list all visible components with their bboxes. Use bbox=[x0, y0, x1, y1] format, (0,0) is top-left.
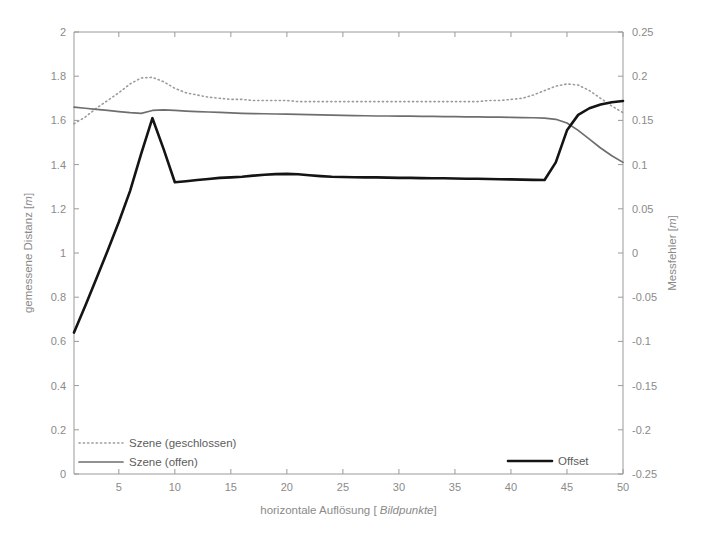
x-tick-label: 40 bbox=[505, 481, 517, 493]
legend-item-szene-offen-label: Szene (offen) bbox=[129, 456, 198, 468]
y-tick-label-right: 0.15 bbox=[632, 114, 653, 126]
y-tick-label-right: 0.25 bbox=[632, 26, 653, 38]
axes-frame bbox=[74, 32, 623, 474]
x-tick-label: 50 bbox=[617, 481, 629, 493]
y-tick-label-right: 0.1 bbox=[632, 159, 647, 171]
series-szene-offen bbox=[74, 107, 623, 162]
y-tick-label-right: 0.05 bbox=[632, 203, 653, 215]
series-offset bbox=[74, 101, 623, 333]
x-tick-label: 20 bbox=[281, 481, 293, 493]
y-tick-label-left: 1.2 bbox=[51, 203, 66, 215]
y-tick-label-left: 1.6 bbox=[51, 114, 66, 126]
y-tick-label-left: 1.8 bbox=[51, 70, 66, 82]
y-axis-title-left: gemessene Distanz [m] bbox=[22, 193, 34, 313]
y-tick-label-left: 0 bbox=[60, 468, 66, 480]
legend-item-offset-label: Offset bbox=[558, 455, 589, 467]
x-tick-label: 25 bbox=[337, 481, 349, 493]
chart-canvas: 510152025303540455000.20.40.60.811.21.41… bbox=[0, 0, 707, 536]
x-tick-label: 15 bbox=[225, 481, 237, 493]
y-tick-label-right: -0.25 bbox=[632, 468, 657, 480]
x-axis-title: horizontale Auflösung [ Bildpunkte] bbox=[260, 504, 436, 516]
y-tick-label-left: 0.4 bbox=[51, 380, 66, 392]
y-tick-label-left: 0.8 bbox=[51, 291, 66, 303]
x-tick-label: 45 bbox=[561, 481, 573, 493]
y-tick-label-left: 2 bbox=[60, 26, 66, 38]
series-szene-geschlossen bbox=[74, 77, 623, 123]
legend-item-szene-geschlossen-label: Szene (geschlossen) bbox=[129, 437, 237, 449]
x-tick-label: 30 bbox=[393, 481, 405, 493]
x-tick-label: 5 bbox=[116, 481, 122, 493]
y-tick-label-left: 0.6 bbox=[51, 335, 66, 347]
y-tick-label-right: -0.05 bbox=[632, 291, 657, 303]
y-tick-label-right: 0.2 bbox=[632, 70, 647, 82]
y-tick-label-right: -0.15 bbox=[632, 380, 657, 392]
y-tick-label-right: 0 bbox=[632, 247, 638, 259]
x-tick-label: 35 bbox=[449, 481, 461, 493]
x-tick-label: 10 bbox=[169, 481, 181, 493]
y-tick-label-right: -0.1 bbox=[632, 335, 651, 347]
chart-figure: 510152025303540455000.20.40.60.811.21.41… bbox=[0, 0, 707, 536]
y-tick-label-left: 0.2 bbox=[51, 424, 66, 436]
y-tick-label-left: 1.4 bbox=[51, 159, 66, 171]
y-axis-title-right: Messfehler [m] bbox=[666, 215, 678, 290]
y-tick-label-right: -0.2 bbox=[632, 424, 651, 436]
y-tick-label-left: 1 bbox=[60, 247, 66, 259]
